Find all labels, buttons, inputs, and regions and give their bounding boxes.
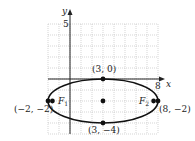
label-f1: F1 (57, 96, 68, 107)
label-f1-sub: 1 (64, 100, 68, 107)
x-tick-label: 8 (155, 81, 161, 91)
label-top-vertex: (3, 0) (92, 64, 116, 74)
ellipse-diagram: x y 8 5 (3, 0) (3, −4) (−2, −2) (8, −2) … (0, 0, 195, 141)
label-right-vertex: (8, −2) (159, 104, 191, 114)
top-vertex-point (101, 77, 106, 82)
x-axis-label: x (166, 79, 171, 89)
y-tick-label: 5 (63, 19, 69, 29)
label-f2-sub: 2 (145, 100, 149, 107)
y-axis-label: y (61, 6, 68, 16)
label-f2: F2 (138, 96, 149, 107)
center-point (101, 99, 106, 104)
focus-point-1 (50, 99, 55, 104)
label-bottom-vertex: (3, −4) (88, 125, 120, 135)
y-axis-arrow-icon (68, 9, 73, 15)
right-vertex-point (156, 99, 161, 104)
label-left-vertex: (−2, −2) (14, 104, 53, 114)
focus-point-2 (151, 99, 156, 104)
left-vertex-point (46, 99, 51, 104)
